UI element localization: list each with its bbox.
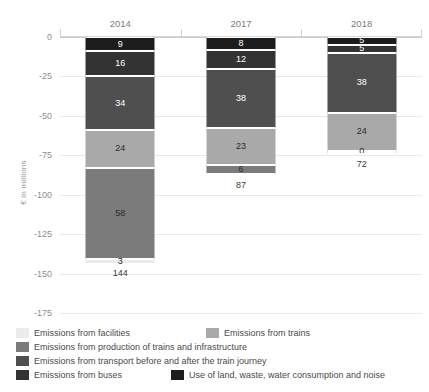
y-axis-tick-label: -50	[18, 111, 52, 120]
category-header-2018: 2018	[301, 9, 422, 37]
bar-segment[interactable]: 58	[86, 168, 155, 259]
y-axis-tick-label: -100	[18, 190, 52, 199]
legend-item[interactable]: Emissions from transport before and afte…	[16, 354, 267, 368]
bar-segment[interactable]: 38	[206, 69, 275, 129]
legend-swatch	[16, 356, 29, 366]
gridline	[60, 313, 422, 314]
segment-value-label: 9	[118, 40, 123, 49]
stacked-bar-chart: € in millions 0-25-50-75-100-125-150-175…	[0, 0, 429, 392]
header-edge-tick	[421, 29, 422, 37]
header-separator-tick	[181, 29, 182, 37]
header-separator-tick	[301, 29, 302, 37]
legend-item[interactable]: Emissions from buses	[16, 368, 122, 382]
legend-item[interactable]: Emissions from production of trains and …	[16, 340, 247, 354]
legend-row: Emissions from facilitiesEmissions from …	[16, 326, 416, 340]
bar-segment[interactable]: 24	[86, 130, 155, 168]
segment-value-label: 38	[236, 94, 246, 103]
legend-swatch	[16, 342, 29, 352]
bar-segment[interactable]: 9	[86, 37, 155, 51]
bar-segment[interactable]: 8	[206, 37, 275, 50]
y-axis-tick-label: -75	[18, 151, 52, 160]
bar-segment[interactable]: 34	[86, 76, 155, 130]
bar-total-label: 144	[113, 268, 128, 278]
bar-column-2018: 553824072	[301, 37, 422, 313]
bar-segment[interactable]: 23	[206, 128, 275, 164]
legend-row: Emissions from busesUse of land, waste, …	[16, 368, 416, 382]
segment-value-label: 8	[238, 39, 243, 48]
bar-segment[interactable]: 24	[327, 113, 396, 151]
category-header-2014: 2014	[60, 9, 181, 37]
segment-value-label: 12	[236, 55, 246, 64]
bar-segment[interactable]: 6	[206, 165, 275, 174]
legend-swatch	[206, 328, 219, 338]
bar-segment[interactable]	[327, 153, 396, 155]
y-axis-tick-label: -125	[18, 230, 52, 239]
legend-item[interactable]: Use of land, waste, water consumption an…	[171, 368, 385, 382]
bar-column-2017: 8123823687	[181, 37, 302, 313]
legend-label: Emissions from trains	[224, 328, 310, 338]
bar-segment[interactable]: 5	[327, 37, 396, 45]
chart-legend: Emissions from facilitiesEmissions from …	[16, 326, 416, 382]
bar-segment[interactable]: 38	[327, 53, 396, 113]
category-header-2017: 2017	[181, 9, 302, 37]
bar-column-2014: 9163424583144	[60, 37, 181, 313]
segment-value-label: 34	[115, 99, 125, 108]
legend-swatch	[16, 328, 29, 338]
legend-row: Emissions from production of trains and …	[16, 340, 416, 354]
stacked-bar-2018[interactable]: 5538240	[327, 37, 396, 155]
stacked-bar-2017[interactable]: 81238236	[206, 37, 275, 176]
segment-value-label: 3	[118, 257, 123, 266]
y-axis-tick-label: -25	[18, 72, 52, 81]
bar-total-label: 87	[236, 180, 246, 190]
header-edge-tick	[60, 29, 61, 37]
segment-value-label: 58	[115, 209, 125, 218]
stacked-bar-2014[interactable]: 9163424583	[86, 37, 155, 264]
plot-area: 91634245831448123823687553824072	[60, 37, 422, 313]
legend-swatch	[171, 370, 184, 380]
segment-value-label: 24	[115, 144, 125, 153]
segment-value-label: 6	[238, 165, 243, 174]
category-header-band: 201420172018	[60, 9, 422, 37]
bar-segment[interactable]: 5	[327, 45, 396, 53]
bar-total-label: 72	[357, 159, 367, 169]
legend-label: Emissions from production of trains and …	[34, 342, 247, 352]
segment-value-label: 16	[115, 59, 125, 68]
bar-segment[interactable]: 16	[86, 51, 155, 76]
bar-segment[interactable]: 12	[206, 50, 275, 69]
legend-label: Use of land, waste, water consumption an…	[189, 370, 385, 380]
y-axis-tick-label: -150	[18, 269, 52, 278]
segment-value-label: 24	[357, 127, 367, 136]
legend-row: Emissions from transport before and afte…	[16, 354, 416, 368]
y-axis-tick-label: 0	[18, 33, 52, 42]
legend-swatch	[16, 370, 29, 380]
segment-value-label: 23	[236, 142, 246, 151]
bar-segment[interactable]: 3	[86, 259, 155, 264]
segment-value-label: 38	[357, 78, 367, 87]
legend-item[interactable]: Emissions from trains	[206, 326, 310, 340]
legend-label: Emissions from transport before and afte…	[34, 356, 267, 366]
y-axis-tick-label: -175	[18, 309, 52, 318]
bar-segment[interactable]	[206, 174, 275, 176]
legend-item[interactable]: Emissions from facilities	[16, 326, 130, 340]
legend-label: Emissions from facilities	[34, 328, 130, 338]
legend-label: Emissions from buses	[34, 370, 122, 380]
